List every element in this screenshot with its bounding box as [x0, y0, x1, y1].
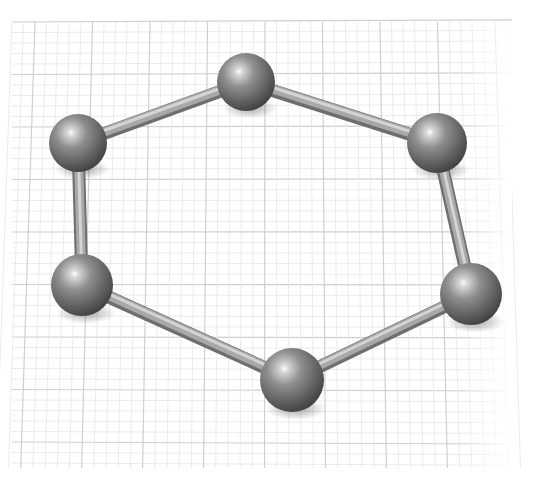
atom-lower-left — [51, 254, 113, 316]
atom-upper-left — [49, 114, 107, 172]
atom-top — [217, 53, 275, 111]
atom-lower-right — [440, 263, 502, 325]
molecule-render — [0, 0, 546, 485]
atom-upper-right — [407, 113, 467, 173]
atom-bottom — [260, 348, 324, 412]
